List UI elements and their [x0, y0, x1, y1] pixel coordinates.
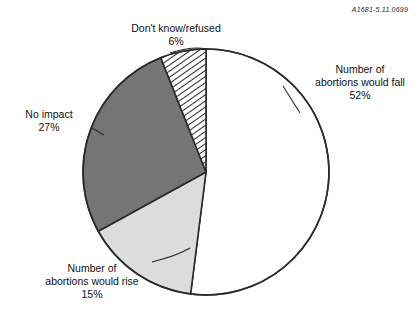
- pie-label-no-impact: No impact 27%: [6, 108, 92, 134]
- pie-label-no-impact-percent: 27%: [6, 121, 92, 134]
- pie-label-abortions-would-fall: Number of abortions would fall 52%: [302, 63, 418, 102]
- pie-label-dont-know-refused-text: Don't know/refused: [131, 22, 221, 34]
- pie-label-abortions-would-fall-percent: 52%: [302, 89, 418, 102]
- pie-label-abortions-would-fall-line1: Number of: [335, 63, 384, 75]
- pie-label-abortions-would-fall-line2: abortions would fall: [315, 76, 405, 88]
- pie-label-abortions-would-rise: Number of abortions would rise 15%: [28, 262, 156, 301]
- pie-label-no-impact-text: No impact: [25, 108, 72, 120]
- pie-label-abortions-would-rise-line2: abortions would rise: [45, 275, 138, 287]
- pie-label-abortions-would-rise-percent: 15%: [28, 288, 156, 301]
- pie-label-dont-know-refused: Don't know/refused 6%: [112, 22, 240, 48]
- pie-label-abortions-would-rise-line1: Number of: [67, 262, 116, 274]
- pie-chart-figure: A1681-5.11.0699 Don't know/refused 6% Nu…: [0, 0, 418, 321]
- pie-label-dont-know-refused-percent: 6%: [112, 35, 240, 48]
